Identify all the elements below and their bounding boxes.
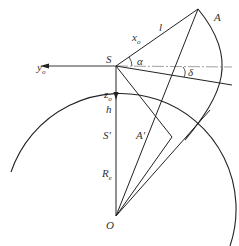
label-S-prime: S' [103, 130, 111, 141]
label-S: S [106, 54, 112, 65]
delta-arc [183, 67, 185, 77]
label-alpha: α [137, 56, 143, 67]
label-R-e: Re [102, 168, 112, 182]
label-delta: δ [188, 67, 193, 78]
line-O-ray1 [116, 137, 172, 216]
label-h: h [106, 104, 112, 115]
line-SA [116, 9, 198, 66]
label-l: l [159, 22, 162, 33]
label-A: A [214, 12, 221, 23]
diagram-lines [0, 0, 239, 246]
label-z-o: zo [104, 89, 112, 103]
label-O: O [106, 220, 114, 231]
label-y-o: yo [37, 62, 45, 76]
reference-axis-dashdot [116, 66, 232, 67]
earth-arc [11, 93, 236, 246]
label-x-o: xo [132, 32, 140, 46]
label-A-prime: A' [136, 130, 145, 141]
geometry-diagram: A l xo S α δ yo zo h S' A' Re O [0, 0, 239, 246]
alpha-arc [129, 57, 132, 66]
line-AO [116, 9, 198, 216]
